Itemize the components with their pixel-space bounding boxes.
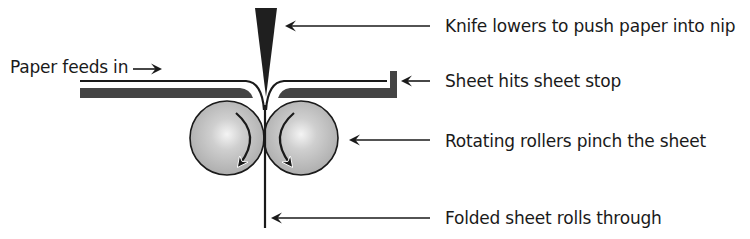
left-feed-plate <box>80 88 253 98</box>
paper-feeds-in-label: Paper feeds in <box>10 57 128 77</box>
sheet-stop-callout-label: Sheet hits sheet stop <box>445 71 621 91</box>
folded-sheet-callout-label: Folded sheet rolls through <box>445 208 662 228</box>
right-roller <box>264 101 338 175</box>
right-feed-plate <box>278 71 397 98</box>
rollers-callout-label: Rotating rollers pinch the sheet <box>445 131 706 151</box>
knife-callout-label: Knife lowers to push paper into nip <box>445 16 735 36</box>
left-roller <box>190 101 264 175</box>
knife-blade <box>255 8 277 97</box>
